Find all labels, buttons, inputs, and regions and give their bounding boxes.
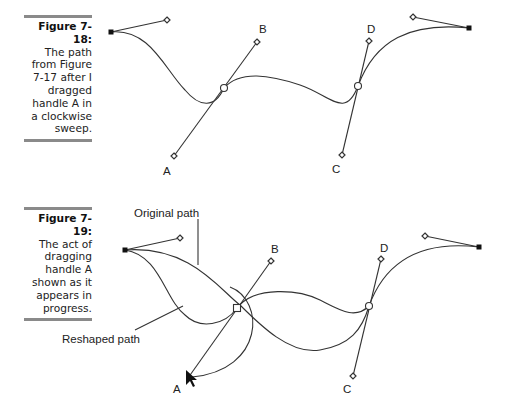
- label-c: C: [332, 163, 340, 175]
- label-a: A: [163, 165, 171, 177]
- label-b: B: [259, 23, 267, 35]
- path-illustrations: B A D C B A D C Original path Reshaped p…: [0, 0, 507, 417]
- label-a: A: [173, 383, 181, 395]
- label-c: C: [343, 383, 351, 395]
- label-original-path: Original path: [134, 207, 199, 219]
- reshaped-path: [125, 246, 479, 324]
- original-path: [125, 250, 369, 351]
- figure-7-19-illustration: [125, 219, 479, 378]
- label-d: D: [380, 242, 388, 254]
- label-b: B: [271, 243, 279, 255]
- label-d: D: [367, 23, 375, 35]
- label-reshaped-path: Reshaped path: [62, 333, 140, 345]
- drag-arc: [192, 287, 253, 377]
- figure-7-18-illustration: [111, 17, 469, 156]
